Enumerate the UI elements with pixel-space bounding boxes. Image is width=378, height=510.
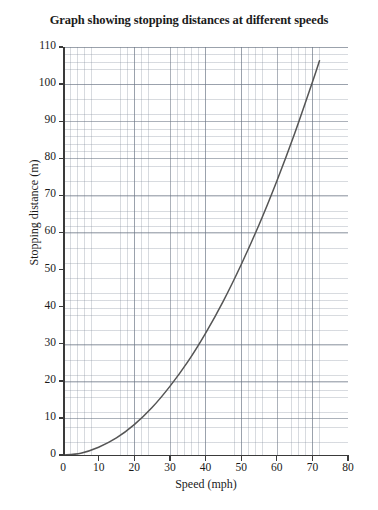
y-tick-70 xyxy=(59,195,64,196)
y-tick-40 xyxy=(59,306,64,307)
x-tick-20 xyxy=(134,456,135,461)
stopping-distance-curve xyxy=(63,47,348,455)
y-tick-30 xyxy=(59,343,64,344)
y-tick-label-60: 60 xyxy=(45,224,57,236)
x-tick-label-40: 40 xyxy=(191,461,221,473)
y-tick-90 xyxy=(59,121,64,122)
y-tick-label-70: 70 xyxy=(45,187,57,199)
x-tick-80 xyxy=(347,456,348,461)
chart-page: Graph showing stopping distances at diff… xyxy=(0,0,378,510)
x-tick-50 xyxy=(241,456,242,461)
x-tick-40 xyxy=(205,456,206,461)
y-tick-0 xyxy=(59,454,64,455)
x-tick-60 xyxy=(276,456,277,461)
y-tick-10 xyxy=(59,417,64,418)
x-tick-10 xyxy=(98,456,99,461)
x-tick-label-80: 80 xyxy=(333,461,363,473)
y-tick-label-30: 30 xyxy=(45,336,57,348)
x-tick-label-50: 50 xyxy=(226,461,256,473)
x-tick-label-70: 70 xyxy=(297,461,327,473)
y-tick-label-50: 50 xyxy=(45,262,57,274)
y-axis-line xyxy=(63,47,65,456)
y-tick-label-80: 80 xyxy=(45,150,57,162)
y-tick-label-100: 100 xyxy=(39,76,56,88)
chart-title: Graph showing stopping distances at diff… xyxy=(0,13,378,28)
x-tick-70 xyxy=(312,456,313,461)
y-axis-title: Stopping distance (m) xyxy=(27,133,42,293)
y-tick-100 xyxy=(59,83,64,84)
y-tick-50 xyxy=(59,269,64,270)
x-tick-30 xyxy=(169,456,170,461)
plot-area xyxy=(63,47,348,455)
y-tick-label-20: 20 xyxy=(45,373,57,385)
x-tick-label-0: 0 xyxy=(48,461,78,473)
y-tick-label-90: 90 xyxy=(45,113,57,125)
x-tick-label-10: 10 xyxy=(84,461,114,473)
y-tick-60 xyxy=(59,232,64,233)
y-tick-label-0: 0 xyxy=(50,447,56,459)
y-tick-label-40: 40 xyxy=(45,299,57,311)
y-tick-80 xyxy=(59,158,64,159)
x-tick-label-20: 20 xyxy=(119,461,149,473)
y-tick-label-10: 10 xyxy=(45,410,57,422)
y-tick-label-110: 110 xyxy=(39,39,56,51)
y-tick-110 xyxy=(59,46,64,47)
x-tick-label-30: 30 xyxy=(155,461,185,473)
x-tick-label-60: 60 xyxy=(262,461,292,473)
x-axis-title: Speed (mph) xyxy=(63,477,349,492)
y-tick-20 xyxy=(59,380,64,381)
